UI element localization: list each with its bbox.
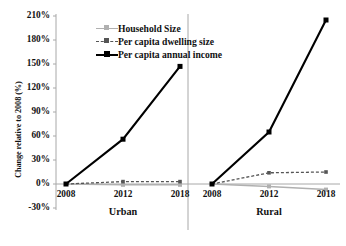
data-point-marker [267,171,271,175]
chart-figure: Change relative to 2008 (%) Household Si… [0,0,346,246]
data-point-marker [64,182,69,187]
y-tick-label: 120% [6,82,50,92]
x-tick-label: 2012 [98,189,148,199]
x-tick-label: 2008 [41,189,91,199]
x-tick-label: 2008 [187,189,237,199]
data-point-marker [324,18,329,23]
y-tick-label: 60% [6,130,50,140]
legend-key-dwelling-size [96,36,118,47]
data-point-marker [178,180,182,184]
data-point-marker [210,182,215,187]
legend-item-annual-income: Per capita annual income [96,48,266,61]
y-tick-label: 150% [6,58,50,68]
y-tick-label: -30% [6,202,50,212]
legend-label-household-size: Household Size [118,23,181,34]
data-point-marker [121,137,126,142]
data-point-marker [178,64,183,69]
data-point-marker [267,184,271,188]
chart-legend: Household Size Per capita dwelling size … [96,22,266,61]
square-marker-icon [104,38,109,43]
legend-label-dwelling-size: Per capita dwelling size [118,36,214,47]
series-line [66,66,180,184]
y-tick-label: 0% [6,178,50,188]
square-marker-icon [104,25,109,30]
legend-label-annual-income: Per capita annual income [118,49,222,60]
y-tick-label: 180% [6,34,50,44]
x-tick-label: 2012 [244,189,294,199]
y-tick-label: 30% [6,154,50,164]
legend-key-annual-income [96,49,118,60]
legend-key-household-size [96,23,118,34]
panel-label-rural: Rural [229,206,309,217]
y-tick-label: 90% [6,106,50,116]
y-tick-label: 210% [6,10,50,20]
panel-label-urban: Urban [83,206,163,217]
square-marker-icon [104,51,110,57]
legend-item-dwelling-size: Per capita dwelling size [96,35,266,48]
legend-item-household-size: Household Size [96,22,266,35]
data-point-marker [267,130,272,135]
data-point-marker [324,170,328,174]
x-tick-label: 2018 [301,189,346,199]
data-point-marker [121,180,125,184]
